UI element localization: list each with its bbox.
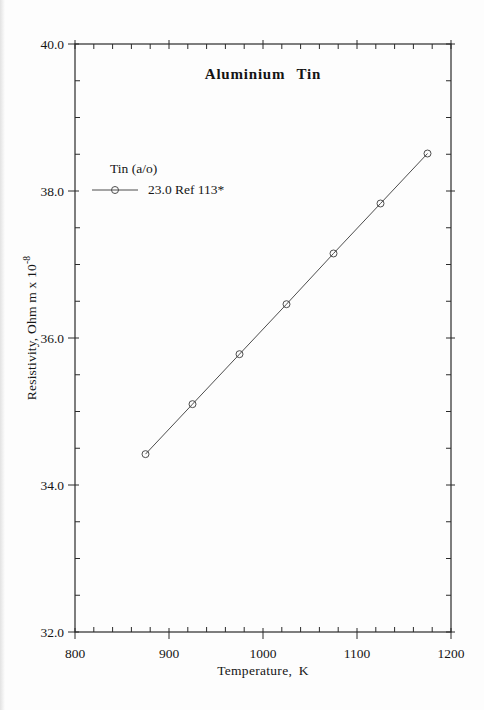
y-axis-title: Resistivity, Ohm m x 10-8 bbox=[22, 256, 40, 400]
chart-canvas: 80090010001100120032.034.036.038.040.0 A… bbox=[0, 0, 484, 710]
x-tick-label: 800 bbox=[65, 646, 86, 661]
x-tick-label: 1200 bbox=[438, 646, 465, 661]
y-tick-label: 40.0 bbox=[40, 37, 64, 52]
chart-title: Aluminium Tin bbox=[75, 66, 451, 83]
plot-area: 80090010001100120032.034.036.038.040.0 bbox=[0, 0, 484, 710]
y-tick-label: 34.0 bbox=[40, 478, 64, 493]
y-axis-title-exponent: -8 bbox=[22, 256, 32, 264]
x-axis-title: Temperature, K bbox=[75, 663, 451, 679]
legend-entry-label: 23.0 Ref 113* bbox=[148, 182, 224, 198]
data-line bbox=[146, 154, 428, 455]
y-tick-label: 38.0 bbox=[40, 184, 64, 199]
legend-series-header: Tin (a/o) bbox=[110, 161, 157, 177]
x-tick-label: 900 bbox=[159, 646, 180, 661]
y-axis-title-text: Resistivity, Ohm m x 10 bbox=[24, 264, 39, 400]
legend-entry: 23.0 Ref 113* bbox=[91, 182, 224, 198]
plot-frame bbox=[75, 44, 451, 632]
y-tick-label: 32.0 bbox=[40, 625, 64, 640]
x-tick-label: 1100 bbox=[344, 646, 371, 661]
y-tick-label: 36.0 bbox=[40, 331, 64, 346]
x-tick-label: 1000 bbox=[250, 646, 277, 661]
open-circle-line-marker-icon bbox=[91, 182, 139, 198]
